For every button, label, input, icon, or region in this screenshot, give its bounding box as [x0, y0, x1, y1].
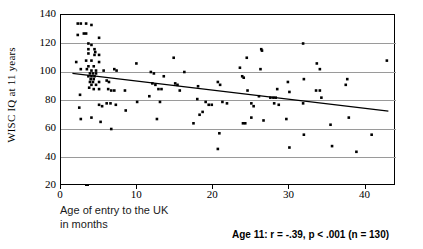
x-tick-mark: [60, 185, 61, 189]
x-tick-mark: [136, 185, 137, 189]
x-tick-mark: [288, 185, 289, 189]
x-tick-label: 40: [350, 189, 380, 200]
scatter-plot-figure: WISC IQ at 11 years 20406080100120140 01…: [0, 0, 423, 249]
x-tick-label: 30: [273, 189, 303, 200]
x-tick-label: 10: [121, 189, 151, 200]
x-tick-label: 20: [197, 189, 227, 200]
x-axis-title: Age of entry to the UK in months: [60, 203, 168, 231]
x-tick-label: 0: [45, 189, 75, 200]
x-axis-title-line1: Age of entry to the UK: [60, 203, 168, 217]
x-tick-mark: [212, 185, 213, 189]
x-tick-mark: [365, 185, 366, 189]
x-axis-title-line2: in months: [60, 217, 168, 231]
stats-annotation: Age 11: r = -.39, p < .001 (n = 130): [232, 229, 389, 240]
